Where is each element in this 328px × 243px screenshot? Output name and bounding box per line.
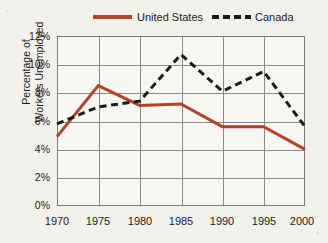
x-tick-label: 1990 (210, 216, 234, 227)
y-tick-label: 2% (35, 172, 50, 182)
chart-legend: United States Canada (0, 6, 328, 28)
x-axis-tick-labels: 1970 1975 1980 1985 1990 1995 2000 (57, 212, 305, 228)
y-tick-label: 10% (29, 59, 50, 69)
x-tick-label: 2000 (290, 216, 314, 227)
y-tick-label: 6% (35, 116, 50, 126)
unemployment-line-chart: United States Canada Percentage of Worke… (0, 0, 328, 243)
y-tick-label: 8% (35, 87, 50, 97)
y-tick-label: 0% (35, 200, 50, 210)
scan-speck (316, 232, 319, 234)
data-series-layer (57, 36, 305, 206)
x-tick-label: 1985 (169, 216, 193, 227)
y-tick-label: 4% (35, 144, 50, 154)
legend-item-canada[interactable]: Canada (212, 10, 294, 24)
x-tick-label: 1980 (128, 216, 152, 227)
legend-item-united-states[interactable]: United States (93, 10, 203, 24)
solid-line-swatch-icon (93, 15, 132, 19)
y-axis-tick-labels: 12% 10% 8% 6% 4% 2% 0% (0, 36, 53, 206)
x-tick-label: 1970 (45, 216, 69, 227)
legend-label-united-states: United States (137, 12, 203, 23)
x-tick-label: 1975 (86, 216, 110, 227)
y-tick-label: 12% (29, 31, 50, 41)
x-tick-label: 1995 (252, 216, 276, 227)
legend-label-canada: Canada (255, 12, 294, 23)
series-line-united-states (57, 86, 305, 150)
dashed-line-swatch-icon (212, 15, 251, 19)
